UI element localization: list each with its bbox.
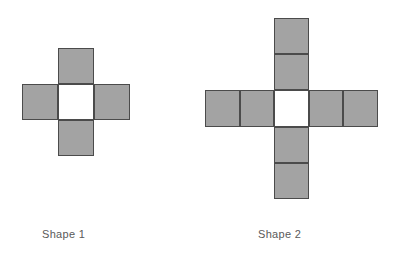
shape-1-figure [22,48,130,156]
grid-cell-empty [240,127,275,163]
grid-cell-empty [22,48,58,84]
grid-cell-empty [309,18,344,54]
grid-cell-empty [343,54,378,90]
grid-cell-gray [343,90,378,126]
grid-cell-gray [240,90,275,126]
grid-cell-empty [309,127,344,163]
grid-cell-gray [58,120,94,156]
grid-cell-empty [94,48,130,84]
grid-cell-empty [94,120,130,156]
grid-cell-gray [58,48,94,84]
shape-2-caption: Shape 2 [258,228,301,240]
shape-1-grid [22,48,130,156]
grid-cell-empty [309,163,344,199]
grid-cell-white [58,84,94,120]
grid-cell-gray [274,18,309,54]
grid-cell-empty [343,18,378,54]
grid-cell-gray [274,127,309,163]
grid-cell-gray [205,90,240,126]
grid-cell-empty [240,54,275,90]
grid-cell-empty [343,127,378,163]
grid-cell-empty [205,18,240,54]
grid-cell-empty [205,54,240,90]
shape-2-grid [205,18,378,199]
grid-cell-white [274,90,309,126]
grid-cell-empty [205,127,240,163]
grid-cell-gray [22,84,58,120]
grid-cell-empty [240,163,275,199]
grid-cell-gray [309,90,344,126]
grid-cell-empty [205,163,240,199]
grid-cell-empty [240,18,275,54]
grid-cell-gray [274,54,309,90]
diagram-canvas: Shape 1 Shape 2 [0,0,399,263]
grid-cell-empty [22,120,58,156]
grid-cell-empty [309,54,344,90]
grid-cell-empty [343,163,378,199]
grid-cell-gray [274,163,309,199]
grid-cell-gray [94,84,130,120]
shape-1-caption: Shape 1 [42,228,85,240]
shape-2-figure [205,18,378,199]
